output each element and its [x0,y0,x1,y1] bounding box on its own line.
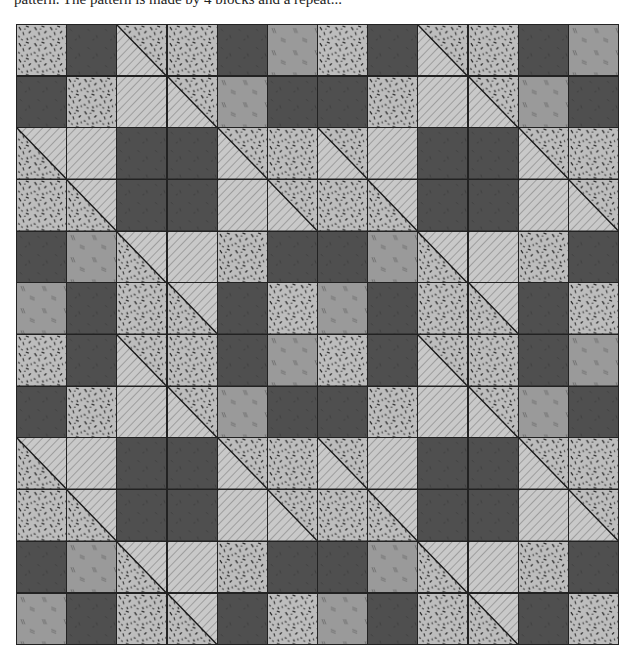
quilt-cell-speckled-square [67,387,116,438]
quilt-cell-dark-square [67,283,116,334]
quilt-cell-triangle-square [418,232,467,283]
quilt-cell-triangle-square [168,283,217,334]
quilt-cell-hatched-square [218,180,267,230]
quilt-cell-triangle-square [17,128,66,179]
quilt-cell-triangle-square [368,180,417,230]
quilt-cell-speckled-square [17,335,66,385]
quilt-cell-dark-square [268,77,317,128]
quilt-cell-dark-square [117,490,166,540]
quilt-pattern-grid [16,24,619,645]
quilt-cell-triangle-square [218,128,267,179]
quilt-cell-dark-square [418,128,467,179]
quilt-cell-speckled-square [218,542,267,593]
quilt-cell-dark-square [17,232,66,283]
quilt-cell-triangle-square [519,438,568,489]
quilt-cell-triangle-square [418,542,467,593]
quilt-cell-dark-square [268,387,317,438]
quilt-cell-triangle-square [168,77,217,128]
quilt-cell-hatched-square [218,490,267,540]
quilt-cell-triangle-square [168,387,217,438]
quilt-cell-dark-square [519,25,568,75]
quilt-cell-dark-square [469,128,518,179]
quilt-cell-dark-square [218,594,267,645]
quilt-cell-dark-square [117,128,166,179]
quilt-cell-dark-square [418,438,467,489]
quilt-cell-dark-square [67,25,116,75]
quilt-cell-dark-square [218,335,267,385]
quilt-cell-speckled-square [218,232,267,283]
quilt-cell-hatched-square [117,387,166,438]
quilt-cell-medium-square [268,335,317,385]
quilt-cell-medium-square [17,594,66,645]
quilt-cell-dark-square [469,490,518,540]
quilt-cell-dark-square [519,335,568,385]
quilt-cell-speckled-square [117,283,166,334]
quilt-cell-medium-square [318,283,367,334]
quilt-cell-triangle-square [418,335,467,385]
quilt-cell-dark-square [218,25,267,75]
quilt-cell-medium-square [569,335,618,385]
quilt-cell-triangle-square [218,438,267,489]
quilt-cell-dark-square [318,77,367,128]
quilt-cell-speckled-square [318,25,367,75]
quilt-cell-dark-square [268,232,317,283]
quilt-cell-hatched-square [368,128,417,179]
quilt-cell-dark-square [569,387,618,438]
quilt-cell-triangle-square [469,77,518,128]
quilt-cell-dark-square [569,542,618,593]
quilt-cell-speckled-square [318,335,367,385]
quilt-cell-hatched-square [519,180,568,230]
quilt-cell-hatched-square [519,490,568,540]
quilt-cell-dark-square [418,180,467,230]
quilt-cell-triangle-square [469,283,518,334]
quilt-cell-speckled-square [268,594,317,645]
quilt-cell-dark-square [168,128,217,179]
quilt-cell-dark-square [17,387,66,438]
quilt-cell-triangle-square [17,438,66,489]
quilt-cell-triangle-square [569,180,618,230]
quilt-cell-speckled-square [268,283,317,334]
quilt-cell-hatched-square [168,232,217,283]
quilt-cell-speckled-square [117,594,166,645]
quilt-cell-medium-square [17,283,66,334]
quilt-cell-speckled-square [17,180,66,230]
quilt-cell-dark-square [368,594,417,645]
quilt-cell-dark-square [17,77,66,128]
quilt-cell-triangle-square [268,180,317,230]
quilt-cell-dark-square [368,283,417,334]
quilt-cell-speckled-square [569,438,618,489]
quilt-cell-dark-square [368,335,417,385]
quilt-cell-triangle-square [117,542,166,593]
quilt-cell-dark-square [519,283,568,334]
quilt-cell-triangle-square [418,25,467,75]
quilt-cell-dark-square [569,77,618,128]
quilt-cell-speckled-square [569,283,618,334]
quilt-cell-dark-square [67,335,116,385]
quilt-cell-hatched-square [418,387,467,438]
quilt-cell-speckled-square [569,594,618,645]
quilt-cell-dark-square [17,542,66,593]
quilt-cell-triangle-square [117,335,166,385]
quilt-cell-hatched-square [67,128,116,179]
quilt-cell-dark-square [368,25,417,75]
quilt-cell-medium-square [368,542,417,593]
quilt-cell-speckled-square [17,25,66,75]
quilt-cell-medium-square [569,25,618,75]
quilt-cell-hatched-square [469,232,518,283]
quilt-cell-triangle-square [569,490,618,540]
quilt-cell-triangle-square [67,490,116,540]
quilt-cell-triangle-square [168,594,217,645]
quilt-cell-speckled-square [519,542,568,593]
quilt-cell-triangle-square [469,594,518,645]
quilt-cell-dark-square [519,594,568,645]
quilt-cell-dark-square [569,232,618,283]
quilt-cell-speckled-square [268,438,317,489]
quilt-cell-speckled-square [368,77,417,128]
quilt-cell-dark-square [117,438,166,489]
quilt-cell-hatched-square [67,438,116,489]
quilt-cell-speckled-square [469,25,518,75]
quilt-cell-triangle-square [368,490,417,540]
quilt-cell-dark-square [168,490,217,540]
quilt-cell-dark-square [168,438,217,489]
quilt-cell-speckled-square [418,283,467,334]
